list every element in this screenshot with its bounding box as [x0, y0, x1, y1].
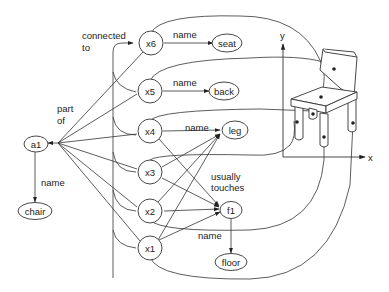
svg-text:leg: leg: [229, 125, 242, 136]
usually-touches-label-2: touches: [211, 182, 245, 193]
svg-text:x1: x1: [145, 243, 155, 254]
f1-name-label: name: [198, 230, 222, 241]
usually-touches-label: usually: [211, 171, 241, 182]
chair-drawing: [291, 49, 357, 147]
node-x1: x1: [138, 236, 162, 260]
node-leg: leg: [222, 121, 248, 139]
node-x4: x4: [138, 119, 162, 143]
node-x3: x3: [138, 160, 162, 184]
x6-name-label: name: [173, 29, 197, 40]
svg-text:back: back: [214, 86, 234, 97]
node-x2: x2: [138, 199, 162, 223]
connected-to-label: connected: [82, 30, 126, 41]
svg-text:floor: floor: [222, 257, 240, 268]
part-of-label: part: [57, 103, 74, 114]
a1-name-label: name: [41, 177, 65, 188]
node-seat: seat: [212, 34, 242, 52]
svg-text:x3: x3: [145, 167, 155, 178]
svg-text:chair: chair: [25, 206, 46, 217]
node-back: back: [209, 82, 239, 100]
svg-text:x2: x2: [145, 206, 155, 217]
part-of-label-2: of: [57, 115, 65, 126]
svg-text:x4: x4: [145, 126, 155, 137]
x4-name-label: name: [185, 122, 209, 133]
svg-text:a1: a1: [31, 139, 42, 150]
node-x6: x6: [139, 31, 163, 55]
svg-text:seat: seat: [218, 38, 236, 49]
x5-name-label: name: [173, 77, 197, 88]
node-chair: chair: [18, 203, 52, 220]
node-floor: floor: [215, 254, 247, 271]
y-axis-label: y: [280, 30, 285, 41]
node-f1: f1: [220, 202, 242, 219]
svg-text:x6: x6: [146, 38, 156, 49]
part-of-edges: [48, 52, 143, 241]
node-a1: a1: [24, 136, 48, 152]
connected-to-label-2: to: [82, 42, 90, 53]
connected-to-edges: [113, 43, 136, 278]
svg-text:x5: x5: [145, 86, 155, 97]
x-axis-label: x: [368, 152, 373, 163]
svg-text:f1: f1: [227, 205, 235, 216]
semantic-network-diagram: y x connected to part of name name nam: [0, 0, 389, 292]
node-x5: x5: [138, 79, 162, 103]
